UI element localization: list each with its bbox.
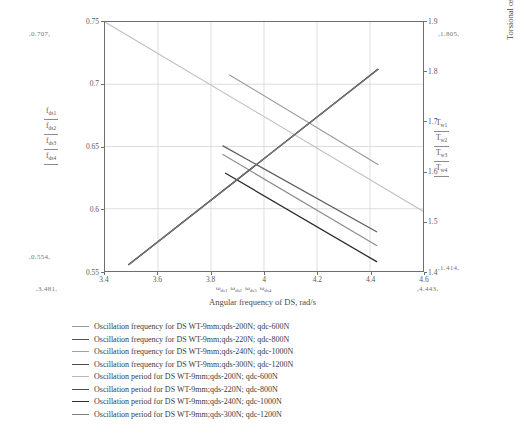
ticks-right-label: 1.9 <box>428 17 454 26</box>
tick-mark <box>424 71 427 72</box>
annotation-right-top: ,1.805, <box>438 30 459 38</box>
annotation-x-right: ,4.443, <box>417 285 438 293</box>
ticks-left-label: 0.75 <box>73 17 99 26</box>
legend-label: Oscillation period for DS WT-9mm;qds-240… <box>94 396 282 407</box>
legend-label: Oscillation period for DS WT-9mm;qds-200… <box>94 371 278 382</box>
legend-swatch <box>72 389 89 390</box>
legend-item[interactable]: Oscillation frequency for DS WT-9mm;qds-… <box>72 359 293 370</box>
ticks-left-label: 0.6 <box>73 205 99 214</box>
plot-canvas <box>105 22 423 271</box>
legend-swatch <box>72 326 89 327</box>
tick-mark <box>424 121 427 122</box>
annotation-left-bottom: ,0.554, <box>29 253 50 261</box>
legend-item[interactable]: Oscillation period for DS WT-9mm;qds-240… <box>72 396 293 407</box>
legend-swatch <box>72 364 89 365</box>
legend-item[interactable]: Oscillation frequency for DS WT-9mm;qds-… <box>72 334 293 345</box>
gridlines <box>105 22 423 271</box>
bottom-axis-title: Angular frequency of DS, rad/s <box>0 297 525 307</box>
legend-swatch <box>72 376 89 377</box>
sym-left-item: fds1 <box>44 106 58 120</box>
legend-item[interactable]: Oscillation period for DS WT-9mm;qds-220… <box>72 384 293 395</box>
tick-mark <box>424 21 427 22</box>
bottom-symbol: ωds1 <box>216 284 228 293</box>
tick-mark <box>424 222 427 223</box>
legend-item[interactable]: Oscillation frequency for DS WT-9mm;qds-… <box>72 321 293 332</box>
sym-right-item: Tw3 <box>434 148 449 162</box>
annotation-left-top: ,0.707, <box>29 30 50 38</box>
ticks-right-label: 1.8 <box>428 67 454 76</box>
plot-area[interactable] <box>104 21 424 272</box>
ticks-bottom-label: 3.6 <box>144 275 170 284</box>
sym-right-item: Tw1 <box>434 118 449 132</box>
chart-page: Torsional oscillation frequency of DS, H… <box>0 0 525 436</box>
sym-right-item: Tw2 <box>434 133 449 147</box>
left-symbol-stack: fds1fds2fds3fds4 <box>44 106 58 165</box>
ticks-bottom-label: 4.2 <box>304 275 330 284</box>
sym-left-item: fds3 <box>44 136 58 150</box>
legend-label: Oscillation frequency for DS WT-9mm;qds-… <box>94 334 289 345</box>
legend-swatch <box>72 414 89 415</box>
legend-swatch <box>72 351 89 352</box>
ticks-bottom-label: 3.8 <box>198 275 224 284</box>
legend-label: Oscillation frequency for DS WT-9mm;qds-… <box>94 359 293 370</box>
legend-swatch <box>72 339 89 340</box>
sym-left-item: fds2 <box>44 121 58 135</box>
tick-mark <box>371 272 372 275</box>
tick-mark <box>264 272 265 275</box>
legend-item[interactable]: Oscillation period for DS WT-9mm;qds-300… <box>72 409 293 420</box>
ticks-bottom-label: 4.6 <box>411 275 437 284</box>
series-line-0 <box>230 75 378 165</box>
tick-mark <box>157 272 158 275</box>
tick-mark <box>317 272 318 275</box>
ticks-left-label: 0.65 <box>73 142 99 151</box>
ticks-bottom-label: 3.4 <box>91 275 117 284</box>
legend-label: Oscillation frequency for DS WT-9mm;qds-… <box>94 346 293 357</box>
series-line-7 <box>129 69 378 264</box>
legend-label: Oscillation period for DS WT-9mm;qds-220… <box>94 384 278 395</box>
ticks-left-label: 0.7 <box>73 79 99 88</box>
bottom-symbol-row: ωds1ωds2ωds3ωds4 <box>216 284 271 293</box>
bottom-symbol: ωds3 <box>245 284 257 293</box>
sym-left-item: fds4 <box>44 151 58 165</box>
legend-label: Oscillation period for DS WT-9mm;qds-300… <box>94 409 282 420</box>
tick-mark <box>211 272 212 275</box>
tick-mark <box>104 272 105 275</box>
ticks-bottom-label: 4 <box>251 275 277 284</box>
right-axis-title: Torsional oscillation period of DS, s <box>505 0 515 40</box>
chart-legend: Oscillation frequency for DS WT-9mm;qds-… <box>72 321 293 420</box>
ticks-bottom-label: 4.4 <box>358 275 384 284</box>
legend-item[interactable]: Oscillation frequency for DS WT-9mm;qds-… <box>72 346 293 357</box>
series-line-1 <box>223 146 377 232</box>
bottom-symbol: ωds2 <box>231 284 243 293</box>
series-line-3 <box>226 173 377 261</box>
series-line-2 <box>223 155 377 246</box>
ticks-right-label: 1.5 <box>428 217 454 226</box>
legend-swatch <box>72 401 89 402</box>
tick-mark <box>424 272 425 275</box>
legend-item[interactable]: Oscillation period for DS WT-9mm;qds-200… <box>72 371 293 382</box>
annotation-x-left: ,3.481, <box>36 285 57 293</box>
tick-mark <box>424 172 427 173</box>
legend-label: Oscillation frequency for DS WT-9mm;qds-… <box>94 321 289 332</box>
sym-right-item: Tw4 <box>434 163 449 177</box>
bottom-symbol: ωds4 <box>260 284 272 293</box>
right-symbol-stack: Tw1Tw2Tw3Tw4 <box>434 118 449 177</box>
